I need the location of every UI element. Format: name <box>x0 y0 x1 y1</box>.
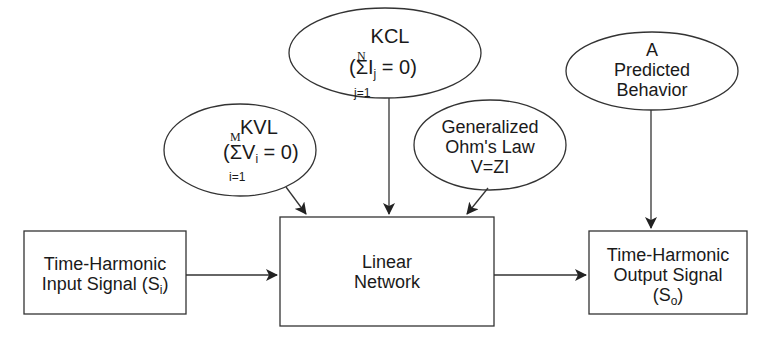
kvl-title: KVL <box>240 117 300 137</box>
kcl-lower-limit: j=1 <box>354 86 370 100</box>
output-label: Time-Harmonic Output Signal (So) <box>589 245 747 311</box>
network-label: Linear Network <box>280 252 494 292</box>
kcl-equation: (ΣIj = 0) <box>349 57 469 84</box>
kcl-ellipse <box>289 8 481 98</box>
edge-ohm-network <box>467 188 488 214</box>
input-label: Time-Harmonic Input Signal (Si) <box>24 254 186 300</box>
predicted-label: A Predicted Behavior <box>582 40 722 100</box>
kvl-lower-limit: i=1 <box>229 170 245 184</box>
kcl-title: KCL <box>355 26 425 46</box>
kvl-equation: (ΣVi = 0) <box>223 142 343 169</box>
ohm-label: Generalized Ohm's Law V=ZI <box>420 117 560 177</box>
edge-kvl-network <box>286 187 306 214</box>
